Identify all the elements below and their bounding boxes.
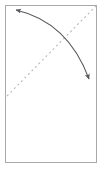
panel-border: [6, 6, 97, 163]
diagram-figure: [0, 0, 103, 171]
figure-canvas: Diagonal dashed line with double-headed …: [0, 0, 103, 171]
